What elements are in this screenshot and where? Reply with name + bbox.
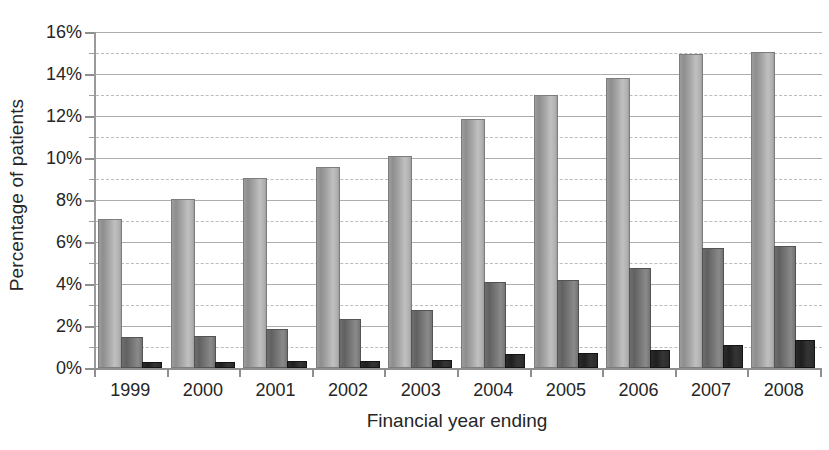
y-axis-tick-label: 12% [46,106,82,127]
bar[interactable] [751,52,775,368]
bar[interactable] [171,199,195,368]
bar[interactable] [629,268,651,368]
y-tick-mark-major [85,326,94,328]
x-axis-tick-label: 2002 [328,380,368,401]
bar[interactable] [411,310,433,368]
y-tick-mark-major [85,116,94,118]
bar-group [532,32,605,368]
x-axis-tick-label: 2004 [473,380,513,401]
bar-group [749,32,822,368]
y-axis-tick-label: 2% [56,316,82,337]
x-axis-tick-marks [94,368,820,378]
x-axis-tick-label: 2006 [618,380,658,401]
bar[interactable] [534,95,558,368]
x-tick-mark [820,368,822,377]
bar[interactable] [723,345,743,368]
y-tick-mark-minor [89,53,94,54]
bar[interactable] [194,336,216,368]
x-tick-mark [747,368,749,377]
y-tick-mark-major [85,368,94,370]
y-axis-tick-labels: 0%2%4%6%8%10%12%14%16% [34,0,88,390]
y-tick-mark-major [85,200,94,202]
y-tick-mark-minor [89,137,94,138]
x-axis-tick-label: 2003 [401,380,441,401]
bar-group [604,32,677,368]
bar-group [386,32,459,368]
bar[interactable] [339,319,361,368]
x-axis-tick-labels: 1999200020012002200320042005200620072008 [94,380,820,406]
bar[interactable] [505,354,525,368]
bars-layer [96,32,822,368]
x-tick-mark [457,368,459,377]
plot-area [94,32,822,368]
bar[interactable] [679,54,703,368]
y-tick-mark-minor [89,305,94,306]
x-axis-tick-label: 2007 [691,380,731,401]
y-axis-tick-label: 4% [56,274,82,295]
y-axis-title: Percentage of patients [0,0,34,390]
y-tick-mark-minor [89,179,94,180]
bar[interactable] [461,119,485,368]
bar[interactable] [484,282,506,368]
x-tick-mark [312,368,314,377]
bar-group [169,32,242,368]
bar[interactable] [316,167,340,369]
bar[interactable] [388,156,412,368]
bar[interactable] [121,337,143,368]
y-axis-tick-label: 6% [56,232,82,253]
y-tick-mark-major [85,74,94,76]
y-axis-tick-label: 8% [56,190,82,211]
y-tick-mark-major [85,284,94,286]
bar[interactable] [243,178,267,368]
bar[interactable] [360,361,380,368]
bar[interactable] [578,353,598,368]
bar-group [677,32,750,368]
y-tick-mark-major [85,158,94,160]
bar[interactable] [266,329,288,368]
x-axis-tick-label: 2005 [546,380,586,401]
x-axis-tick-label: 2001 [255,380,295,401]
bar[interactable] [650,350,670,368]
y-tick-mark-major [85,242,94,244]
x-tick-mark [167,368,169,377]
x-axis-tick-label: 2000 [183,380,223,401]
bar[interactable] [774,246,796,368]
bar[interactable] [606,78,630,368]
bar[interactable] [287,361,307,368]
x-axis-tick-label: 2008 [764,380,804,401]
x-tick-mark [602,368,604,377]
y-tick-mark-minor [89,263,94,264]
y-tick-mark-major [85,32,94,34]
bar-group [314,32,387,368]
bar[interactable] [702,248,724,368]
y-axis-tick-label: 10% [46,148,82,169]
y-axis-title-text: Percentage of patients [6,99,28,291]
y-axis-tick-label: 0% [56,358,82,379]
bar[interactable] [432,360,452,368]
y-tick-mark-minor [89,347,94,348]
x-tick-mark [384,368,386,377]
bar-group [241,32,314,368]
x-tick-mark [94,368,96,377]
x-tick-mark [675,368,677,377]
bar-group [459,32,532,368]
bar[interactable] [795,340,815,368]
bar-group [96,32,169,368]
x-tick-mark [239,368,241,377]
bar-chart: Percentage of patients 0%2%4%6%8%10%12%1… [0,0,829,450]
bar[interactable] [98,219,122,368]
x-tick-mark [530,368,532,377]
y-tick-mark-minor [89,95,94,96]
bar[interactable] [557,280,579,368]
x-axis-title: Financial year ending [94,410,820,432]
x-axis-tick-label: 1999 [110,380,150,401]
y-axis-tick-label: 16% [46,22,82,43]
y-tick-mark-minor [89,221,94,222]
y-axis-tick-label: 14% [46,64,82,85]
